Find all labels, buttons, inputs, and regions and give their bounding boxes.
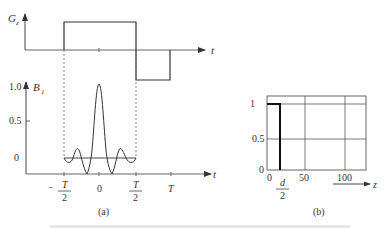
- xtick-neg-half-den: 2: [62, 192, 67, 203]
- b1-y-label-sub: 1: [41, 88, 45, 96]
- b1-ytick-0.5: 0.5: [9, 115, 22, 126]
- xtick-neg-half-num: T: [62, 179, 69, 190]
- profile-x-label: z: [372, 179, 377, 190]
- gz-y-label: G: [8, 12, 16, 24]
- b1-x-label: t: [213, 168, 217, 180]
- xtick-pos-half-den: 2: [133, 192, 138, 203]
- profile-frame: [267, 96, 366, 170]
- panel-a-caption: (a): [98, 206, 109, 218]
- profile-ytick-1: 1: [250, 98, 255, 109]
- b1-sinc-waveform: [64, 84, 136, 174]
- profile-ytick-0.5: 0.5: [252, 133, 265, 144]
- xtick-pos-half-num: T: [133, 179, 140, 190]
- slice-profile-plot: [267, 96, 366, 170]
- gz-waveform: [64, 22, 170, 80]
- b1-y-label: B: [33, 81, 40, 93]
- b1-ytick-1.0: 1.0: [9, 81, 22, 92]
- panel-b-caption: (b): [313, 206, 325, 218]
- profile-xtick-50: 50: [299, 172, 309, 183]
- gz-plot: [25, 14, 205, 80]
- b1-ytick-0: 0: [14, 152, 19, 163]
- profile-ytick-0: 0: [259, 164, 264, 175]
- xtick-neg-sign: −: [48, 182, 54, 193]
- d-half-num: d: [280, 177, 286, 188]
- gz-y-label-sub: z: [15, 19, 19, 27]
- xtick-T-label: T: [168, 183, 175, 194]
- profile-xtick-100: 100: [337, 172, 352, 183]
- d-half-den: 2: [280, 190, 285, 201]
- profile-xtick-0: 0: [267, 172, 272, 183]
- gz-x-label: t: [211, 44, 215, 56]
- xtick-zero-label: 0: [97, 183, 102, 194]
- b1-plot: [26, 82, 211, 176]
- cutoff-caption-remnant: [50, 225, 350, 228]
- figure-canvas: G z t B 1 1.0 0.5 0 t − T 2 0 T 2 T (a): [0, 0, 384, 228]
- profile-curve: [267, 104, 280, 170]
